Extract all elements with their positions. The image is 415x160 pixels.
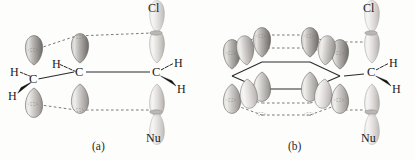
carbon-label-a1: C bbox=[29, 73, 37, 86]
figure-background bbox=[0, 0, 415, 160]
nucleophile-label-b: Nu bbox=[361, 132, 376, 144]
caption-a: (a) bbox=[92, 141, 105, 153]
carbon-label-a2: C bbox=[75, 66, 83, 79]
nucleophile-label-a: Nu bbox=[146, 132, 161, 144]
carbon-label-b-reacting: C bbox=[367, 66, 375, 79]
hydrogen-label-a2: H bbox=[8, 90, 17, 102]
caption-b: (b) bbox=[288, 141, 301, 153]
carbon-label-a3-reacting: C bbox=[152, 66, 160, 79]
hydrogen-label-a3: H bbox=[52, 58, 61, 70]
hydrogen-label-b2: H bbox=[392, 83, 401, 95]
chlorine-label-b: Cl bbox=[363, 2, 374, 14]
hydrogen-label-a1: H bbox=[10, 66, 19, 78]
hydrogen-label-b1: H bbox=[389, 57, 398, 69]
hydrogen-label-a4: H bbox=[174, 57, 183, 69]
hydrogen-label-a5: H bbox=[177, 83, 186, 95]
chlorine-label-a: Cl bbox=[148, 2, 159, 14]
orbital-overlap-figure: C C C H H H H H Cl Nu (a) C H H Cl Nu (b… bbox=[0, 0, 415, 160]
orbital-diagram-svg bbox=[0, 0, 415, 160]
